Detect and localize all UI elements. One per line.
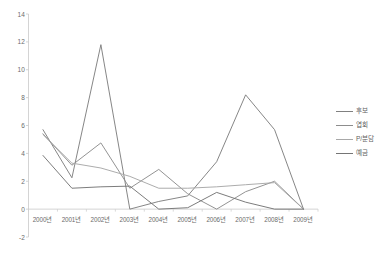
legend-line-swatch <box>336 153 353 154</box>
legend-item-2[interactable]: 엽회 <box>336 118 392 132</box>
series-line-4 <box>43 155 304 209</box>
legend-label: 엽회 <box>356 121 368 129</box>
y-axis-label: 0 <box>3 206 25 213</box>
x-axis-label-3: 2002년 <box>91 216 111 224</box>
y-axis-label: -2 <box>3 234 25 241</box>
x-axis-label-5: 2004년 <box>149 216 169 224</box>
chart-root: 14121086420-2 2000년2001년2002년2003년2004년2… <box>0 0 392 260</box>
x-axis-label-9: 2008년 <box>264 216 284 224</box>
legend-item-4[interactable]: 예금 <box>336 146 392 160</box>
y-axis-label: 6 <box>3 122 25 129</box>
axis-layer <box>26 14 318 237</box>
series-line-2 <box>43 134 304 209</box>
x-axis-label-1: 2000년 <box>33 216 53 224</box>
legend-label: 후보 <box>356 107 368 115</box>
x-axis-label-8: 2007년 <box>235 216 255 224</box>
legend-item-1[interactable]: 후보 <box>336 104 392 118</box>
y-axis-label: 4 <box>3 150 25 157</box>
x-axis-tick-labels: 2000년2001년2002년2003년2004년2005년2006년2007년… <box>28 216 318 230</box>
y-axis-label: 8 <box>3 94 25 101</box>
chart-legend: 후보엽회P/분담예금 <box>336 104 392 160</box>
y-axis-label: 12 <box>3 38 25 45</box>
x-axis-label-7: 2006년 <box>206 216 226 224</box>
legend-label: P/분담 <box>356 135 374 143</box>
x-axis-label-4: 2003년 <box>120 216 140 224</box>
y-axis-label: 2 <box>3 178 25 185</box>
y-axis-label: 14 <box>3 11 25 18</box>
x-axis-label-10: 2009년 <box>293 216 313 224</box>
legend-line-swatch <box>336 139 353 140</box>
legend-label: 예금 <box>356 149 368 157</box>
x-axis-label-6: 2005년 <box>177 216 197 224</box>
series-line-3 <box>43 135 304 210</box>
series-layer <box>43 45 304 209</box>
y-axis-tick-labels: 14121086420-2 <box>0 0 25 260</box>
x-axis-label-2: 2001년 <box>62 216 82 224</box>
legend-item-3[interactable]: P/분담 <box>336 132 392 146</box>
y-axis-label: 10 <box>3 66 25 73</box>
legend-line-swatch <box>336 125 353 126</box>
legend-line-swatch <box>336 111 353 112</box>
